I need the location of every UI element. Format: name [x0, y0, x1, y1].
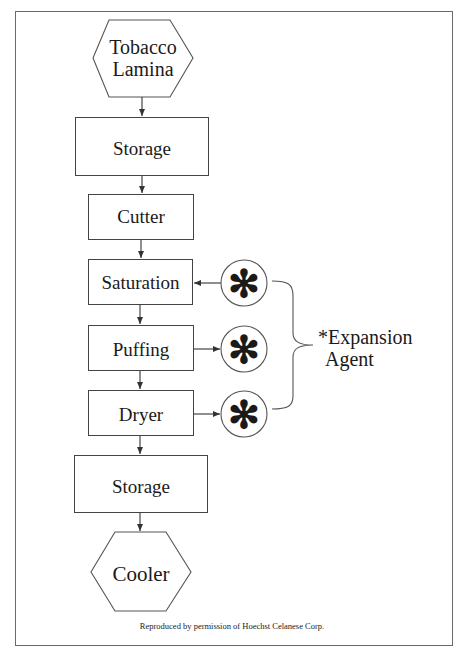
node-label-puffing: Puffing: [88, 325, 194, 373]
node-label-dryer: Dryer: [88, 390, 194, 438]
node-label-cutter: Cutter: [88, 194, 194, 238]
node-label-line1: Tobacco: [109, 36, 176, 58]
legend-line2: Agent: [318, 348, 412, 370]
curly-brace: [272, 281, 313, 409]
asterisk-icon: ✻: [221, 327, 267, 373]
node-label-line2: Lamina: [112, 58, 173, 80]
permission-caption: Reproduced by permission of Hoechst Cela…: [0, 621, 464, 631]
asterisk-icon: ✻: [221, 392, 267, 438]
node-cooler: Cooler: [91, 532, 191, 616]
node-label-storage-1: Storage: [75, 117, 209, 179]
expansion-agent-legend: *Expansion Agent: [318, 326, 412, 370]
node-tobacco-lamina: Tobacco Lamina: [93, 26, 193, 90]
node-label-storage-2: Storage: [74, 455, 208, 517]
legend-line1: *Expansion: [318, 326, 412, 348]
node-label-saturation: Saturation: [88, 259, 193, 305]
asterisk-icon: ✻: [221, 261, 267, 307]
